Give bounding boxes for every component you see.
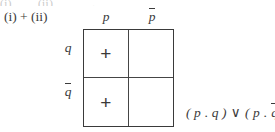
row-label-q-negated: q (58, 84, 78, 100)
clipped-text-remnant: (i) (ii) . , (0, 0, 275, 6)
figure-canvas: (i) (ii) . , (i) + (ii) p p q q + + (0, 0, 275, 132)
paren-open-right: ( (245, 105, 250, 120)
operand-q-left: q (212, 105, 219, 120)
disjunction-operator: ∨ (230, 105, 242, 120)
truth-table-grid: + + (83, 29, 174, 127)
grid-cell-p-q[interactable]: + (84, 30, 129, 78)
grid-cell-pbar-q[interactable] (129, 30, 174, 78)
operand-p-left: p (194, 105, 201, 120)
operand-q-negated-right: q (271, 104, 275, 121)
paren-close-left: ) (222, 105, 227, 120)
result-expression: ( p . q ) ∨ ( p . q ) (186, 104, 274, 121)
row-label-q-text: q (65, 40, 72, 55)
column-header-p-negated: p (137, 9, 167, 25)
cell-mark-plus: + (100, 44, 111, 63)
grid-cell-pbar-qbar[interactable] (129, 78, 174, 126)
column-header-p-negated-text: p (148, 9, 156, 25)
paren-open-left: ( (186, 105, 191, 120)
conjunction-dot-right: . (263, 105, 267, 120)
cell-mark-plus: + (100, 92, 111, 111)
row-label-q: q (58, 40, 78, 56)
column-header-p-text: p (103, 9, 110, 24)
conjunction-dot-left: . (204, 105, 208, 120)
operand-p-right: p (253, 105, 260, 120)
case-label: (i) + (ii) (4, 9, 48, 25)
grid-cell-p-qbar[interactable]: + (84, 78, 129, 126)
row-label-q-negated-text: q (64, 84, 72, 100)
column-header-p: p (91, 9, 121, 25)
